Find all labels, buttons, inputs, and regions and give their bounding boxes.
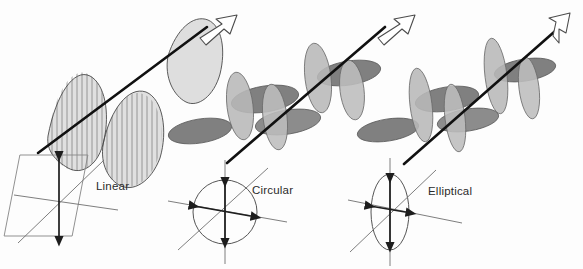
linear-wave-lobe-upper [102, 91, 163, 188]
elliptical-light-lobe-3 [480, 37, 511, 115]
elliptical-propagation-arrow-icon [549, 13, 570, 43]
circular-label: Circular [252, 184, 293, 196]
circular-propagation-arrow-icon [378, 15, 415, 45]
linear-depth-axis [18, 160, 104, 243]
linear-wave-body [48, 19, 223, 210]
elliptical-depth-axis [350, 170, 436, 252]
elliptical-dark-lobe-1 [356, 114, 421, 145]
elliptical-label: Elliptical [428, 185, 472, 197]
polarization-figure: Linear [0, 0, 583, 269]
polarization-diagram-svg: Linear [0, 0, 583, 269]
linear-label: Linear [96, 180, 129, 192]
circular-dark-lobe-1 [167, 114, 234, 148]
panel-elliptical: Elliptical [348, 13, 570, 266]
circular-light-lobe-3 [301, 42, 335, 115]
